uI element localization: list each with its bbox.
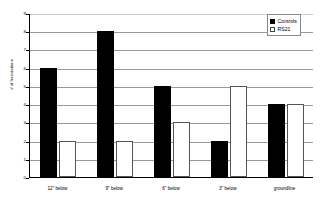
x-axis-tick-labels: 12" below9" below6" below3" belowgroundl…	[29, 186, 313, 202]
x-axis-tick-label: 9" below	[86, 186, 143, 192]
x-axis-tick-label: groundline	[256, 186, 313, 192]
y-axis-tick-label: 1	[4, 158, 26, 162]
hollow-square-icon	[270, 27, 275, 32]
legend-item: Controls	[270, 17, 297, 25]
bar-controls-2	[154, 86, 171, 177]
y-axis-tick-labels: 0123456789	[0, 14, 26, 178]
plot-area	[29, 14, 313, 178]
y-axis-tick-label: 5	[4, 85, 26, 89]
bar-group	[97, 14, 133, 177]
bar-controls-0	[40, 68, 57, 177]
bar-group	[268, 14, 304, 177]
y-axis-tick-label: 9	[4, 12, 26, 16]
x-axis-tick-label: 12" below	[29, 186, 86, 192]
filled-square-icon	[270, 19, 275, 24]
y-axis-tick-label: 6	[4, 66, 26, 70]
bar-controls-4	[268, 104, 285, 177]
bar-rs21-1	[116, 141, 133, 177]
bar-group	[211, 14, 247, 177]
bar-rs21-4	[287, 104, 304, 177]
y-axis-tick-label: 8	[4, 30, 26, 34]
chart-legend: ControlsRS21	[267, 14, 301, 36]
legend-item-label: RS21	[278, 26, 291, 32]
bar-rs21-3	[230, 86, 247, 177]
y-axis-tick-label: 3	[4, 121, 26, 125]
x-axis-tick-label: 3" below	[199, 186, 256, 192]
y-axis-tick-label: 4	[4, 103, 26, 107]
bar-controls-3	[211, 141, 228, 177]
bar-rs21-2	[173, 122, 190, 177]
y-axis-tick-mark	[26, 178, 29, 179]
bar-controls-1	[97, 31, 114, 177]
bar-chart: # of Inundations 0123456789 12" below9" …	[0, 0, 328, 216]
x-axis-tick-label: 6" below	[143, 186, 200, 192]
bar-rs21-0	[59, 141, 76, 177]
bar-group	[40, 14, 76, 177]
bar-group	[154, 14, 190, 177]
legend-item-label: Controls	[278, 18, 297, 24]
y-axis-tick-label: 7	[4, 48, 26, 52]
y-axis-tick-label: 0	[4, 176, 26, 180]
y-axis-tick-label: 2	[4, 139, 26, 143]
legend-item: RS21	[270, 25, 297, 33]
